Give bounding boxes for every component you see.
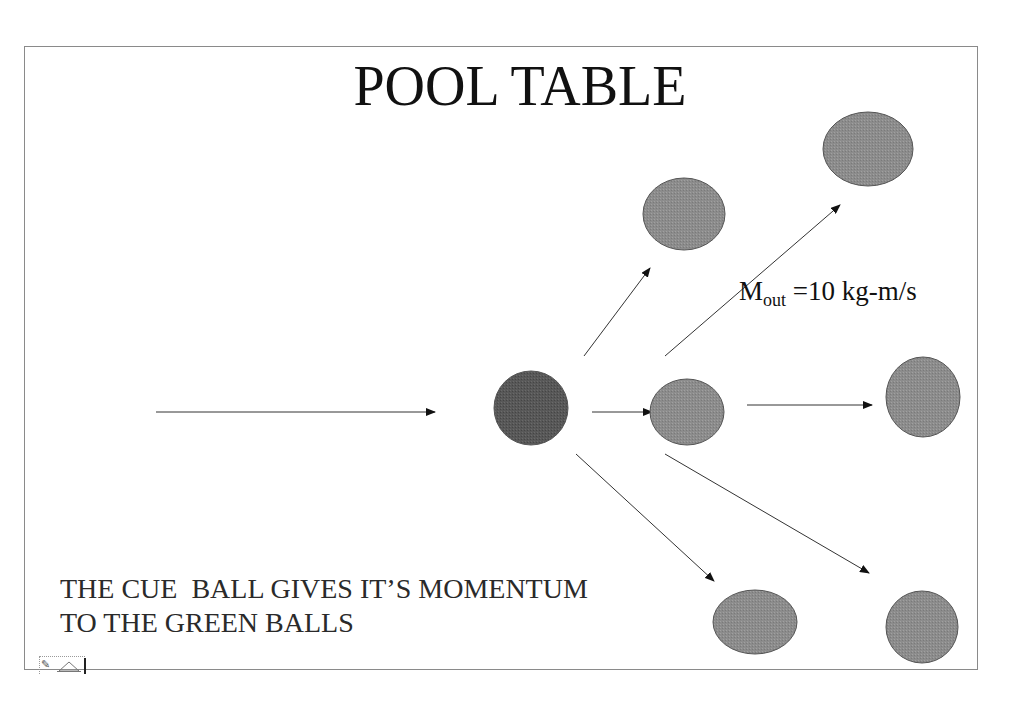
momentum-annotation: Mout =10 kg-m/s	[739, 278, 917, 305]
pen-icon[interactable]: ✎	[41, 659, 50, 670]
green-ball-top-right	[823, 112, 913, 186]
arrow-to-upper	[584, 268, 650, 356]
arrow-to-bottom-right	[665, 454, 869, 573]
triangle-icon[interactable]	[57, 660, 81, 672]
cue-ball	[494, 371, 568, 445]
green-ball-bottom-right	[886, 591, 958, 663]
arrow-to-bottom	[576, 454, 714, 581]
slideshow-popup-toolbar[interactable]: ✎	[39, 656, 85, 674]
momentum-symbol: M	[739, 276, 763, 306]
green-ball-bottom	[713, 590, 797, 654]
text-cursor	[84, 658, 86, 674]
momentum-subscript: out	[763, 290, 786, 310]
slide-title: POOL TABLE	[0, 58, 1015, 114]
momentum-value: =10 kg-m/s	[786, 276, 917, 306]
green-ball-center	[650, 379, 724, 445]
caption-line-1: THE CUE BALL GIVES IT’S MOMENTUM	[60, 572, 588, 606]
slide-caption: THE CUE BALL GIVES IT’S MOMENTUMTO THE G…	[60, 572, 588, 640]
green-ball-right	[886, 357, 960, 437]
green-ball-upper	[643, 178, 725, 250]
caption-line-2: TO THE GREEN BALLS	[60, 606, 588, 640]
